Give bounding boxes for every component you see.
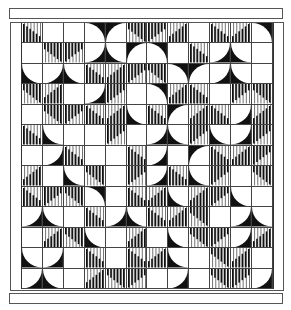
- quilt-tile-quarter-circle-black-corner-bottom-left: [64, 166, 85, 186]
- quilt-tile-bars-hanging-right: [231, 269, 252, 289]
- quilt-tile-blank: [85, 146, 106, 166]
- quilt-tile-bars-hanging-left: [43, 43, 64, 63]
- quilt-tile-bars-rising-right: [168, 23, 189, 43]
- quilt-tile-blank: [64, 125, 85, 145]
- quilt-tile-bars-rising-left: [210, 105, 231, 125]
- quilt-tile-blank: [106, 166, 127, 186]
- quilt-tile-quarter-circle-black-corner-bottom-right: [147, 166, 168, 186]
- quilt-tile-bars-hanging-left: [106, 269, 127, 289]
- quilt-tile-quarter-circle-black-corner-bottom-left: [43, 125, 64, 145]
- quilt-tile-bars-hanging-left: [252, 84, 273, 104]
- quilt-tile-bars-rising-right: [43, 84, 64, 104]
- quilt-tile-quarter-circle-black-corner-bottom-right: [43, 64, 64, 84]
- quilt-tile-bars-hanging-right: [127, 166, 148, 186]
- quilt-tile-quarter-circle-black-corner-bottom-left: [127, 207, 148, 227]
- quilt-tile-bars-rising-right: [252, 105, 273, 125]
- quilt-tile-bars-hanging-right: [106, 125, 127, 145]
- quilt-tile-bars-rising-right: [43, 228, 64, 248]
- quilt-tile-blank: [64, 207, 85, 227]
- quilt-tile-bars-rising-left: [127, 146, 148, 166]
- quilt-tile-bars-hanging-right: [252, 146, 273, 166]
- quilt-tile-quarter-circle-black-corner-top-right: [85, 23, 106, 43]
- quilt-tile-bars-rising-right: [189, 105, 210, 125]
- quilt-tile-bars-hanging-left: [252, 166, 273, 186]
- quilt-tile-blank: [231, 166, 252, 186]
- quilt-tile-quarter-circle-black-corner-bottom-left: [210, 125, 231, 145]
- quilt-tile-bars-rising-right: [252, 228, 273, 248]
- quilt-tile-quarter-circle-black-corner-bottom-right: [252, 269, 273, 289]
- quilt-tile-quarter-circle-black-corner-top-right: [168, 64, 189, 84]
- quilt-tile-bars-rising-left: [22, 187, 43, 207]
- quilt-tile-quarter-circle-black-corner-bottom-left: [22, 64, 43, 84]
- quilt-tile-blank: [252, 43, 273, 63]
- quilt-tile-bars-rising-left: [85, 207, 106, 227]
- quilt-tile-quarter-circle-black-corner-top-left: [106, 23, 127, 43]
- quilt-tile-bars-hanging-right: [210, 187, 231, 207]
- quilt-tile-quarter-circle-black-corner-bottom-right: [210, 43, 231, 63]
- quilt-tile-blank: [64, 248, 85, 268]
- quilt-tile-bars-rising-right: [168, 207, 189, 227]
- quilt-tile-bars-rising-left: [210, 23, 231, 43]
- quilt-tile-blank: [106, 228, 127, 248]
- quilt-tile-blank: [106, 146, 127, 166]
- quilt-tile-quarter-circle-black-corner-top-right: [147, 43, 168, 63]
- quilt-tile-quarter-circle-black-corner-bottom-right: [147, 125, 168, 145]
- quilt-tile-bars-hanging-left: [189, 207, 210, 227]
- quilt-tile-blank: [210, 84, 231, 104]
- quilt-tile-quarter-circle-black-corner-bottom-right: [231, 105, 252, 125]
- quilt-tile-quarter-circle-black-corner-bottom-right: [231, 228, 252, 248]
- quilt-tile-bars-rising-left: [64, 146, 85, 166]
- quilt-tile-quarter-circle-black-corner-bottom-left: [231, 64, 252, 84]
- quilt-tile-quarter-circle-black-corner-top-left: [168, 105, 189, 125]
- quilt-tile-quarter-circle-black-corner-bottom-left: [168, 248, 189, 268]
- quilt-tile-bars-rising-right: [22, 166, 43, 186]
- quilt-tile-bars-rising-right: [106, 64, 127, 84]
- quilt-tile-bars-hanging-left: [64, 187, 85, 207]
- top-border-strip: [9, 8, 283, 19]
- quilt-tile-bars-hanging-right: [64, 43, 85, 63]
- quilt-tile-bars-rising-right: [127, 228, 148, 248]
- quilt-tile-grid: [21, 23, 274, 289]
- quilt-tile-bars-rising-right: [231, 23, 252, 43]
- quilt-tile-quarter-circle-black-corner-bottom-left: [231, 187, 252, 207]
- quilt-tile-bars-rising-right: [85, 269, 106, 289]
- quilt-tile-blank: [22, 43, 43, 63]
- quilt-tile-bars-rising-right: [147, 187, 168, 207]
- quilt-tile-quarter-circle-black-corner-top-left: [189, 146, 210, 166]
- quilt-tile-quarter-circle-black-corner-bottom-right: [22, 269, 43, 289]
- quilt-tile-bars-hanging-right: [127, 269, 148, 289]
- quilt-tile-quarter-circle-black-corner-bottom-left: [252, 207, 273, 227]
- quilt-tile-bars-rising-right: [147, 248, 168, 268]
- quilt-tile-bars-hanging-left: [189, 228, 210, 248]
- quilt-tile-bars-rising-left: [147, 105, 168, 125]
- quilt-tile-blank: [127, 125, 148, 145]
- quilt-tile-blank: [64, 269, 85, 289]
- quilt-tile-bars-hanging-left: [210, 248, 231, 268]
- quilt-tile-bars-rising-left: [189, 84, 210, 104]
- quilt-tile-blank: [22, 228, 43, 248]
- quilt-tile-quarter-circle-black-corner-bottom-left: [189, 166, 210, 186]
- quilt-tile-quarter-circle-black-corner-bottom-right: [147, 146, 168, 166]
- quilt-tile-bars-hanging-right: [106, 84, 127, 104]
- quilt-tile-bars-rising-left: [22, 23, 43, 43]
- quilt-tile-quarter-circle-black-corner-bottom-right: [231, 207, 252, 227]
- quilt-tile-bars-hanging-right: [231, 84, 252, 104]
- quilt-tile-quarter-circle-black-corner-bottom-left: [43, 269, 64, 289]
- quilt-tile-bars-hanging-left: [22, 84, 43, 104]
- quilt-tile-bars-hanging-left: [85, 166, 106, 186]
- quilt-tile-quarter-circle-black-corner-top-right: [252, 23, 273, 43]
- quilt-tile-blank: [168, 146, 189, 166]
- quilt-tile-blank: [252, 187, 273, 207]
- quilt-tile-bars-rising-left: [127, 187, 148, 207]
- quilt-tile-bars-hanging-right: [127, 64, 148, 84]
- quilt-tile-quarter-circle-black-corner-bottom-left: [168, 187, 189, 207]
- quilt-tile-blank: [189, 269, 210, 289]
- quilt-tile-quarter-circle-black-corner-bottom-left: [127, 105, 148, 125]
- quilt-tile-quarter-circle-black-corner-bottom-left: [43, 207, 64, 227]
- quilt-tile-quarter-circle-black-corner-bottom-left: [22, 248, 43, 268]
- quilt-tile-quarter-circle-black-corner-bottom-left: [168, 228, 189, 248]
- quilt-tile-bars-rising-left: [85, 248, 106, 268]
- quilt-tile-bars-hanging-right: [210, 166, 231, 186]
- quilt-tile-quarter-circle-black-corner-bottom-left: [106, 43, 127, 63]
- quilt-tile-quarter-circle-black-corner-top-right: [85, 187, 106, 207]
